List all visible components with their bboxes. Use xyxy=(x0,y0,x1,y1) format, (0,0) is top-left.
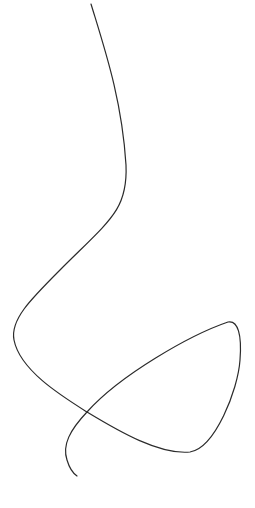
curve-stroke xyxy=(13,4,240,476)
drawing-canvas xyxy=(0,0,255,508)
freehand-curve xyxy=(0,0,255,508)
